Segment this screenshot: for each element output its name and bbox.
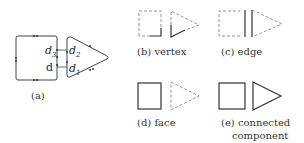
solid-vertex-triangle-corner bbox=[171, 25, 185, 37]
dashed-triangle bbox=[171, 82, 199, 110]
panel-c: (c) edge bbox=[219, 10, 282, 57]
dashed-triangle bbox=[252, 10, 282, 37]
dashed-square bbox=[219, 11, 240, 36]
solid-square bbox=[219, 83, 245, 109]
solid-face-square bbox=[138, 83, 161, 109]
label-d1: d1 bbox=[69, 62, 81, 77]
caption-c: (c) edge bbox=[221, 46, 262, 57]
label-d: d bbox=[46, 61, 53, 74]
panel-d: (d) face bbox=[137, 82, 199, 128]
caption-b: (b) vertex bbox=[137, 46, 187, 57]
caption-e-line2: component bbox=[232, 130, 288, 141]
dashed-triangle bbox=[171, 11, 199, 30]
caption-d: (d) face bbox=[137, 117, 176, 128]
solid-vertex-square-corner bbox=[150, 28, 161, 36]
caption-a: (a) bbox=[31, 90, 45, 101]
panel-a: d3 d d2 d1 (a) bbox=[15, 35, 108, 101]
label-d3: d3 bbox=[45, 44, 57, 59]
panel-b: (b) vertex bbox=[137, 11, 199, 57]
panel-e: (e) connected component bbox=[219, 82, 291, 141]
caption-e-line1: (e) connected bbox=[221, 117, 291, 128]
label-d2: d2 bbox=[69, 44, 81, 59]
solid-triangle bbox=[253, 82, 281, 110]
dashed-square bbox=[139, 11, 161, 36]
